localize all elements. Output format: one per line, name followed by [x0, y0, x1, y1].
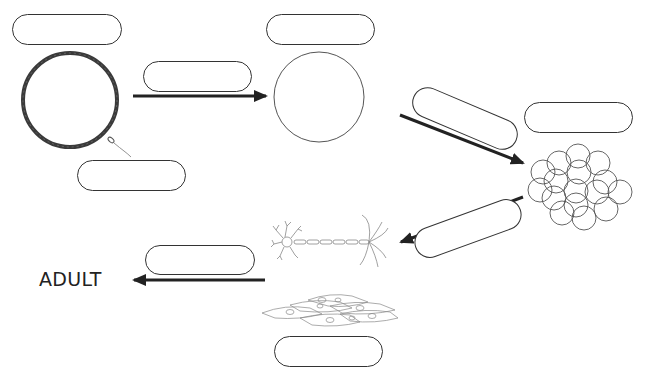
adult-stage-label: ADULT [39, 268, 102, 290]
blank-label-embryo[interactable] [524, 102, 633, 133]
blank-label-tissue[interactable] [274, 336, 383, 367]
life-cycle-diagram: ADULT [0, 0, 645, 379]
cell-cluster-icon [528, 144, 632, 230]
blank-label-growth[interactable] [145, 245, 255, 275]
blank-label-egg[interactable] [12, 14, 122, 45]
tissue-cells-icon [262, 295, 398, 326]
nerve-cell-icon [271, 215, 388, 267]
sperm-icon [107, 136, 131, 157]
blank-label-sperm[interactable] [77, 160, 186, 191]
blank-label-fertilization[interactable] [143, 61, 252, 92]
egg-cell-icon [23, 53, 117, 147]
zygote-cell-icon [274, 52, 364, 142]
blank-label-zygote[interactable] [266, 14, 375, 45]
